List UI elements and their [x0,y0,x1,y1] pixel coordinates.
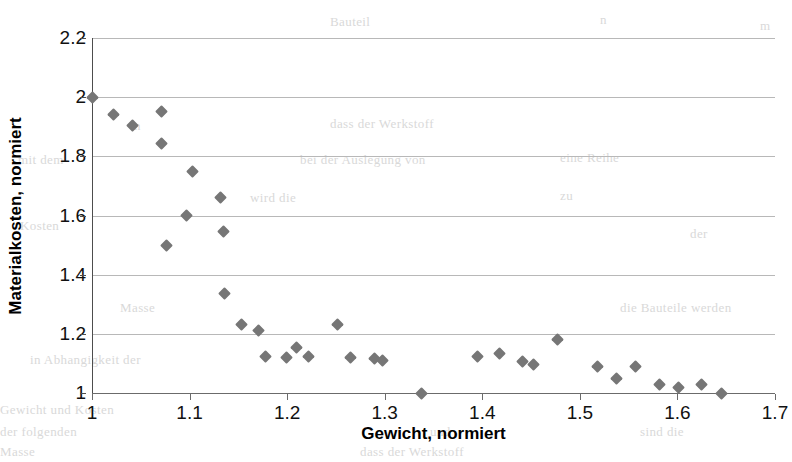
data-point [218,288,231,301]
data-point [160,239,173,252]
y-tick-mark [80,156,86,157]
x-axis-tick-labels: 11.11.21.31.41.51.61.7 [92,394,775,428]
data-point [86,91,99,104]
x-tick-mark [775,394,776,400]
data-point [332,319,345,332]
x-axis-title: Gewicht, normiert [92,424,775,444]
x-tick-mark [287,394,288,400]
y-tick-mark [80,334,86,335]
y-tick-mark [80,216,86,217]
data-point [291,341,304,354]
data-point [672,381,685,394]
scatter-chart: 11.21.41.61.822.2 11.11.21.31.41.51.61.7… [0,0,792,462]
data-series-markers [92,38,775,393]
x-tick-label: 1.2 [274,402,300,424]
data-point [280,351,293,364]
x-tick-label: 1.3 [371,402,397,424]
x-tick-mark [385,394,386,400]
data-point [302,350,315,363]
data-point [155,106,168,119]
x-tick-label: 1.4 [469,402,495,424]
data-point [252,325,265,338]
x-tick-label: 1.1 [176,402,202,424]
x-tick-label: 1.7 [762,402,788,424]
data-point [127,119,140,132]
data-point [180,209,193,222]
data-point [611,372,624,385]
data-point [155,137,168,150]
data-point [653,378,666,391]
x-tick-mark [482,394,483,400]
data-point [214,191,227,204]
y-axis-title-holder: Materialkosten, normiert [22,38,42,394]
x-tick-mark [580,394,581,400]
y-axis-title: Materialkosten, normiert [6,117,26,314]
data-point [259,350,272,363]
data-point [591,360,604,373]
data-point [186,165,199,178]
data-point [107,109,120,122]
y-tick-mark [80,393,86,394]
data-point [629,360,642,373]
data-point [551,333,564,346]
data-point [695,378,708,391]
x-tick-mark [677,394,678,400]
data-point [471,350,484,363]
x-tick-label: 1 [87,402,98,424]
y-tick-mark [80,275,86,276]
y-tick-mark [80,38,86,39]
x-tick-mark [92,394,93,400]
data-point [217,225,230,238]
x-tick-mark [190,394,191,400]
data-point [528,359,541,372]
data-point [344,351,357,364]
x-tick-label: 1.6 [664,402,690,424]
data-point [235,319,248,332]
data-point [493,347,506,360]
data-point [516,356,529,369]
x-tick-label: 1.5 [567,402,593,424]
